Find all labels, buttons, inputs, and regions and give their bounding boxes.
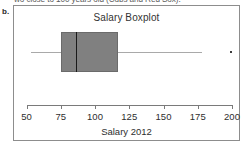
- x-axis-tick-label: 75: [55, 111, 66, 122]
- plot-area: 5075100125150175200: [14, 6, 239, 140]
- x-axis-tick: [198, 105, 199, 109]
- box-iqr: [61, 32, 119, 72]
- x-axis-tick: [27, 105, 28, 109]
- x-axis-tick-label: 50: [21, 111, 32, 122]
- figure-screenshot: wo close to 100 years old (Cubs and Red …: [0, 0, 250, 142]
- x-axis-tick: [232, 105, 233, 109]
- x-axis-tick: [95, 105, 96, 109]
- outlier-point: [230, 51, 232, 53]
- x-axis-tick-label: 125: [121, 111, 137, 122]
- x-axis-tick-label: 150: [156, 111, 172, 122]
- x-axis-tick: [164, 105, 165, 109]
- x-axis-tick-label: 175: [190, 111, 206, 122]
- x-axis-tick: [61, 105, 62, 109]
- part-label-b: b.: [2, 7, 9, 16]
- x-axis-tick-label: 100: [87, 111, 103, 122]
- x-axis-title: Salary 2012: [14, 126, 239, 137]
- x-axis-tick-label: 200: [224, 111, 240, 122]
- chart-panel: Salary Boxplot 5075100125150175200 Salar…: [13, 5, 240, 141]
- x-axis-tick: [129, 105, 130, 109]
- median-line: [76, 32, 77, 72]
- cut-off-body-text: wo close to 100 years old (Cubs and Red …: [14, 0, 246, 4]
